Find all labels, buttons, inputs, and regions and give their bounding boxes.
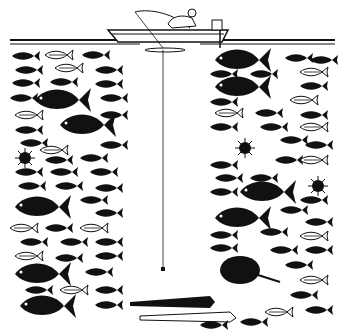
boat-with-fisherman [108, 9, 228, 52]
bottom-fish-school [130, 296, 293, 330]
sinker [161, 267, 165, 271]
left-fish-school [10, 50, 128, 318]
illustration-canvas [0, 0, 343, 336]
stingray [220, 256, 260, 284]
fishing-line [161, 50, 165, 271]
fishing-illustration [0, 0, 343, 336]
right-fish-school [210, 48, 338, 315]
